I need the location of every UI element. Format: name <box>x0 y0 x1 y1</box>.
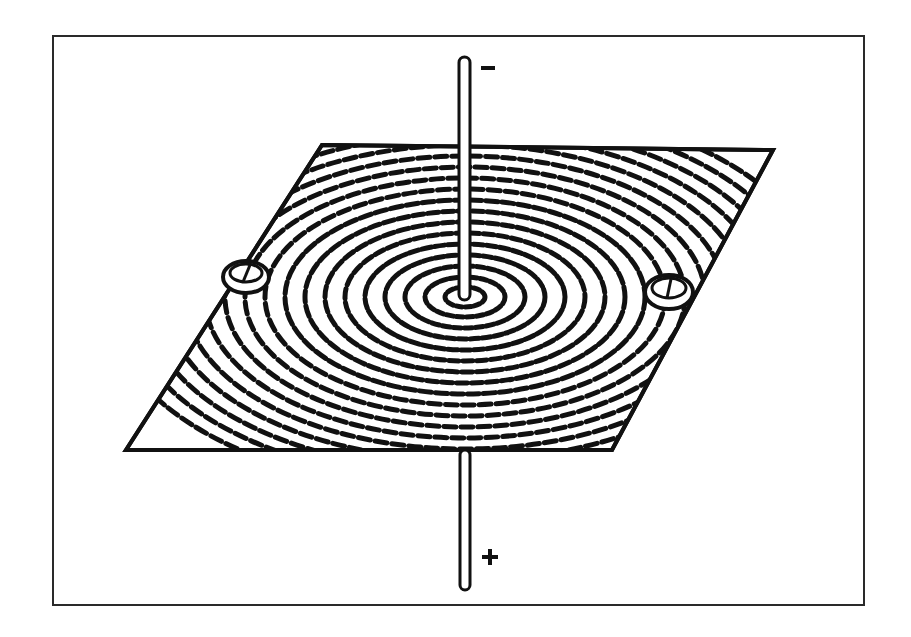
wire-upper <box>459 57 470 300</box>
positive-terminal-icon <box>482 549 498 565</box>
wire-lower <box>460 450 470 590</box>
field-diagram <box>0 0 911 637</box>
right-compass-icon <box>645 275 693 309</box>
left-compass-icon <box>223 261 269 293</box>
